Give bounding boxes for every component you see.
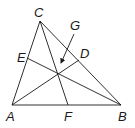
label-c: C xyxy=(34,5,44,20)
label-d: D xyxy=(80,46,89,61)
segment-bc xyxy=(40,21,121,105)
triangle-diagram: C G D E A F B xyxy=(0,0,135,128)
segment-cf xyxy=(40,21,68,105)
arrow-to-g xyxy=(61,34,74,63)
segment-be xyxy=(27,58,121,105)
label-f: F xyxy=(64,109,73,124)
label-b: B xyxy=(118,109,127,124)
label-a: A xyxy=(5,109,15,124)
label-e: E xyxy=(17,50,26,65)
label-g: G xyxy=(70,18,80,33)
